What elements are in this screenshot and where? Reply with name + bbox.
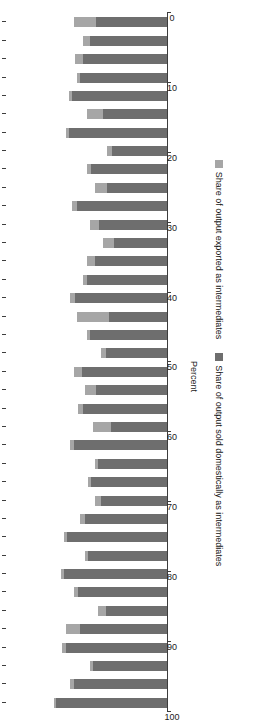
bar-stack <box>85 551 167 561</box>
bar-segment-domestic <box>80 624 167 634</box>
bar-segment-domestic <box>111 422 167 432</box>
bar-segment-exported <box>74 17 97 27</box>
bar-segment-domestic <box>85 514 167 524</box>
bar-segment-exported <box>77 312 109 322</box>
bar-segment-exported <box>74 367 82 377</box>
bar-segment-domestic <box>77 201 167 211</box>
legend-swatch-icon <box>215 353 223 361</box>
bar-column <box>6 13 167 31</box>
bar-stack <box>101 348 167 358</box>
bar-stack <box>70 293 167 303</box>
bar-stack <box>66 624 167 634</box>
legend-item: Share of output exported as intermediate… <box>214 160 224 340</box>
bar-segment-domestic <box>69 128 167 138</box>
bar-column <box>6 491 167 509</box>
bar-column <box>6 215 167 233</box>
bar-segment-domestic <box>93 661 167 671</box>
bar-segment-exported <box>90 220 100 230</box>
bar-stack <box>72 201 167 211</box>
bar-segment-domestic <box>83 404 167 414</box>
bar-segment-exported <box>66 624 80 634</box>
bar-segment-domestic <box>98 459 167 469</box>
bar-stack <box>88 477 167 487</box>
bar-stack <box>62 643 167 653</box>
bar-column <box>6 638 167 656</box>
bar-segment-domestic <box>99 220 167 230</box>
bar-segment-domestic <box>95 256 167 266</box>
stacked-bar-chart: AngolaBeninBotswanaBurkina FasoBurundiCa… <box>0 0 270 726</box>
bar-segment-exported <box>93 422 111 432</box>
bar-segment-domestic <box>114 238 167 248</box>
bar-stack <box>87 164 167 174</box>
bar-segment-domestic <box>103 109 167 119</box>
rotated-figure-container: AngolaBeninBotswanaBurkina FasoBurundiCa… <box>0 0 270 726</box>
bar-segment-domestic <box>112 146 167 156</box>
bar-segment-domestic <box>96 385 167 395</box>
chart-legend: Share of output sold domestically as int… <box>214 0 224 726</box>
bar-segment-domestic <box>75 293 167 303</box>
bar-stack <box>90 220 167 230</box>
bar-stack <box>87 256 167 266</box>
bar-segment-domestic <box>56 698 167 708</box>
bar-column <box>6 179 167 197</box>
bar-segment-domestic <box>106 348 167 358</box>
bar-column <box>6 657 167 675</box>
bar-column <box>6 32 167 50</box>
bar-column <box>6 289 167 307</box>
bar-segment-domestic <box>106 606 167 616</box>
bar-stack <box>83 275 167 285</box>
bar-column <box>6 399 167 417</box>
bar-column <box>6 234 167 252</box>
bar-segment-exported <box>87 109 103 119</box>
bar-segment-domestic <box>96 17 167 27</box>
axis-title: Percent <box>167 27 199 726</box>
bar-stack <box>77 73 167 83</box>
bar-segment-domestic <box>109 312 167 322</box>
bar-stack <box>77 312 167 322</box>
bar-column <box>6 326 167 344</box>
bar-segment-domestic <box>107 183 167 193</box>
bar-stack <box>66 128 167 138</box>
bar-stack <box>95 183 167 193</box>
bar-stack <box>98 606 167 616</box>
bar-segment-exported <box>95 183 108 193</box>
bar-segment-domestic <box>87 275 168 285</box>
bar-stack <box>103 238 167 248</box>
bar-segment-domestic <box>74 440 167 450</box>
bar-column <box>6 142 167 160</box>
bar-column <box>6 50 167 68</box>
bar-stack <box>87 330 167 340</box>
bar-column <box>6 87 167 105</box>
bar-segment-exported <box>98 606 106 616</box>
bar-stack <box>87 109 167 119</box>
bar-column <box>6 381 167 399</box>
bar-column <box>6 160 167 178</box>
bar-column <box>6 68 167 86</box>
bar-stack <box>54 698 167 708</box>
bar-segment-domestic <box>91 477 167 487</box>
bar-stack <box>64 532 167 542</box>
bar-segment-exported <box>87 256 95 266</box>
bar-stack <box>61 569 167 579</box>
plot-area <box>6 13 167 712</box>
bar-column <box>6 675 167 693</box>
legend-label: Share of output sold domestically as int… <box>214 365 224 566</box>
bar-column <box>6 418 167 436</box>
bar-segment-domestic <box>90 36 167 46</box>
bar-stack <box>75 54 167 64</box>
bar-column <box>6 363 167 381</box>
legend-item: Share of output sold domestically as int… <box>214 353 224 566</box>
legend-label: Share of output exported as intermediate… <box>214 172 224 340</box>
bar-stack <box>78 404 167 414</box>
bar-stack <box>107 146 167 156</box>
axis-title-text: Percent <box>189 361 199 392</box>
bar-segment-domestic <box>82 367 167 377</box>
bar-column <box>6 105 167 123</box>
bar-column <box>6 271 167 289</box>
bar-column <box>6 252 167 270</box>
bar-segment-domestic <box>80 73 167 83</box>
bar-stack <box>90 661 167 671</box>
bar-stack <box>80 514 167 524</box>
bar-column <box>6 455 167 473</box>
bar-stack <box>95 496 167 506</box>
